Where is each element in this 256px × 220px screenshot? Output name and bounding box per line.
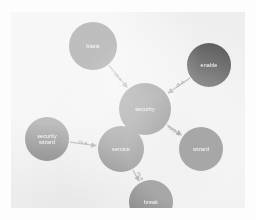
diagram-viewport: IS-AIS-AHAS-AIS-AIS-A blankenablesecurit… xyxy=(0,0,256,220)
node-link-graph[interactable]: IS-AIS-AHAS-AIS-AIS-A blankenablesecurit… xyxy=(11,12,245,208)
graph-node[interactable]: wizard xyxy=(179,127,223,171)
node-label: break xyxy=(144,199,158,205)
node-label: service xyxy=(112,146,130,152)
node-label: wizard xyxy=(192,146,209,152)
graph-node[interactable]: securitywizard xyxy=(25,117,69,161)
edge-label: IS-A xyxy=(136,171,145,182)
edge-label: IS-A xyxy=(78,139,88,145)
graph-node[interactable]: blank xyxy=(69,22,117,70)
node-label: blank xyxy=(86,43,100,49)
node-label: enable xyxy=(201,62,218,68)
diagram-canvas[interactable]: IS-AIS-AHAS-AIS-AIS-A blankenablesecurit… xyxy=(11,12,245,208)
edge-label: HAS-A xyxy=(167,125,182,137)
node-label: security xyxy=(135,106,155,112)
nodes-layer: blankenablesecuritysecuritywizardservice… xyxy=(25,22,231,208)
node-label: wizard xyxy=(38,139,55,145)
graph-node[interactable]: enable xyxy=(187,43,231,87)
graph-node[interactable]: break xyxy=(129,180,173,208)
node-label: security xyxy=(37,133,57,139)
edge-label: IS-A xyxy=(175,79,186,88)
graph-node[interactable]: service xyxy=(98,126,144,172)
